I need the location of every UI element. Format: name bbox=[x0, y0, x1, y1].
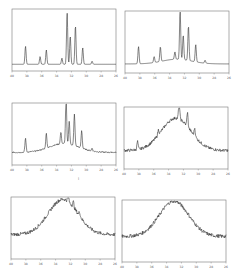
diffraction-trace bbox=[125, 12, 229, 64]
x-tick-label: 32 bbox=[182, 172, 186, 176]
x-tick-label: 34 bbox=[55, 74, 59, 78]
diffraction-trace bbox=[11, 198, 115, 236]
x-tick-label: 38 bbox=[24, 262, 28, 266]
plot-frame bbox=[12, 103, 116, 165]
x-tick-label: 28 bbox=[99, 74, 103, 78]
x-tick-label: 40 bbox=[120, 265, 124, 269]
xrd-panel-bottom-left: 4038363432302826 bbox=[9, 195, 119, 275]
x-tick-label: 30 bbox=[84, 74, 88, 78]
diffraction-trace bbox=[12, 13, 116, 64]
chart-svg: 4038363432302826 bbox=[10, 101, 120, 181]
x-tick-label: 38 bbox=[135, 265, 139, 269]
plot-frame bbox=[12, 9, 116, 71]
x-tick-label: 26 bbox=[227, 76, 231, 80]
x-tick-label: 40 bbox=[122, 172, 126, 176]
diffraction-trace bbox=[12, 104, 116, 153]
x-tick-label: 28 bbox=[209, 265, 213, 269]
x-tick-label: 28 bbox=[211, 172, 215, 176]
stray-mark: i bbox=[78, 176, 79, 181]
x-tick-label: 30 bbox=[196, 172, 200, 176]
x-tick-label: 36 bbox=[40, 74, 44, 78]
x-tick-label: 30 bbox=[84, 168, 88, 172]
x-tick-label: 40 bbox=[10, 168, 14, 172]
x-tick-label: 30 bbox=[83, 262, 87, 266]
x-tick-label: 30 bbox=[194, 265, 198, 269]
plot-frame bbox=[122, 200, 226, 262]
x-tick-label: 26 bbox=[114, 74, 118, 78]
x-tick-label: 36 bbox=[150, 265, 154, 269]
x-tick-label: 34 bbox=[167, 172, 171, 176]
diffraction-trace bbox=[122, 201, 226, 238]
xrd-panel-middle-right: 4038363432302826 bbox=[122, 105, 234, 185]
x-tick-label: 38 bbox=[25, 74, 29, 78]
x-tick-label: 34 bbox=[168, 76, 172, 80]
x-tick-label: 32 bbox=[180, 265, 184, 269]
x-tick-label: 34 bbox=[165, 265, 169, 269]
x-tick-label: 40 bbox=[123, 76, 127, 80]
xrd-panel-bottom-right: 4038363432302826 bbox=[120, 198, 232, 278]
x-tick-label: 36 bbox=[39, 262, 43, 266]
x-tick-label: 26 bbox=[113, 262, 117, 266]
x-tick-label: 32 bbox=[183, 76, 187, 80]
x-tick-label: 38 bbox=[25, 168, 29, 172]
x-tick-label: 30 bbox=[197, 76, 201, 80]
x-tick-label: 32 bbox=[70, 168, 74, 172]
chart-svg: 4038363432302826 bbox=[10, 7, 120, 87]
chart-svg: 4038363432302826 bbox=[9, 195, 119, 275]
x-tick-label: 28 bbox=[98, 262, 102, 266]
x-tick-label: 28 bbox=[99, 168, 103, 172]
x-tick-label: 40 bbox=[9, 262, 13, 266]
x-tick-label: 36 bbox=[153, 76, 157, 80]
x-tick-label: 26 bbox=[226, 172, 230, 176]
plot-frame bbox=[124, 107, 228, 169]
diffraction-trace bbox=[124, 108, 228, 152]
x-tick-label: 32 bbox=[70, 74, 74, 78]
chart-svg: 4038363432302826 bbox=[122, 105, 234, 185]
xrd-panel-top-left: 4038363432302826 bbox=[10, 7, 120, 87]
xrd-panel-middle-left: 4038363432302826 bbox=[10, 101, 120, 181]
x-tick-label: 38 bbox=[137, 172, 141, 176]
x-tick-label: 36 bbox=[152, 172, 156, 176]
x-tick-label: 32 bbox=[69, 262, 73, 266]
x-tick-label: 28 bbox=[212, 76, 216, 80]
x-tick-label: 34 bbox=[55, 168, 59, 172]
x-tick-label: 36 bbox=[40, 168, 44, 172]
chart-svg: 4038363432302826 bbox=[120, 198, 232, 278]
plot-frame bbox=[11, 197, 115, 259]
xrd-panel-top-right: 4038363432302826 bbox=[123, 9, 235, 89]
x-tick-label: 40 bbox=[10, 74, 14, 78]
x-tick-label: 38 bbox=[138, 76, 142, 80]
x-tick-label: 26 bbox=[224, 265, 228, 269]
x-tick-label: 34 bbox=[54, 262, 58, 266]
x-tick-label: 26 bbox=[114, 168, 118, 172]
chart-svg: 4038363432302826 bbox=[123, 9, 235, 89]
